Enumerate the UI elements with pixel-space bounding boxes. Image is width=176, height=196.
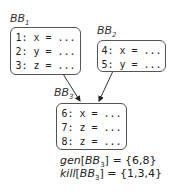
edge-bb2-bb3 [99, 71, 113, 101]
bb2-block: 4: x = ... 5: y = ... [97, 40, 166, 72]
bb3-line-3: 8: z = ... [57, 135, 126, 149]
bb1-block: 1: x = ... 2: y = ... 3: z = ... [10, 27, 81, 75]
bb3-block: 6: x = ... 7: z = ... 8: z = ... [56, 103, 127, 150]
bb1-line-3: 3: z = ... [11, 59, 80, 73]
kill-equation: kill[BB3] = {1,3,4} [60, 168, 162, 182]
bb3-line-2: 7: z = ... [57, 121, 126, 135]
bb3-label: BB3 [54, 87, 74, 101]
bb3-line-1: 6: x = ... [57, 107, 126, 121]
bb2-line-2: 5: y = ... [98, 58, 165, 72]
bb2-line-1: 4: x = ... [98, 44, 165, 58]
bb1-label: BB1 [10, 13, 30, 27]
bb1-line-2: 2: y = ... [11, 45, 80, 59]
bb1-line-1: 1: x = ... [11, 31, 80, 45]
bb2-label: BB2 [97, 25, 117, 39]
